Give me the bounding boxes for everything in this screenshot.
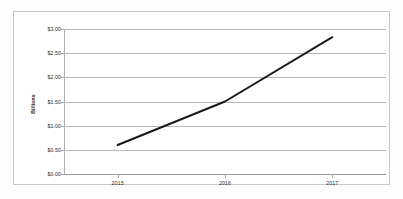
x-axis-tick-mark [118, 174, 119, 178]
y-axis-tick-label: $2.50 [48, 50, 61, 56]
data-series-line [118, 37, 333, 145]
x-axis-tick-label: 2016 [219, 180, 231, 186]
y-axis-tick-label: $3.00 [48, 26, 61, 32]
series-plot [64, 29, 386, 174]
x-axis-tick-labels: 2015 2016 2017 [64, 180, 386, 192]
x-axis-tick-mark [332, 174, 333, 178]
y-axis-tick-label: $1.00 [48, 123, 61, 129]
x-axis-tick-label: 2017 [326, 180, 338, 186]
y-axis-tick-label: $2.00 [48, 74, 61, 80]
y-axis-tick-label: $0.50 [48, 147, 61, 153]
plot-area [64, 29, 386, 174]
y-axis-tick-label: $0.00 [48, 171, 61, 177]
x-axis-tick-mark [225, 174, 226, 178]
x-axis-tick-label: 2015 [112, 180, 124, 186]
chart-frame: Billions $3.00 $2.50 $2.00 $1.50 $1.00 $… [13, 11, 390, 185]
y-axis-tick-labels: $3.00 $2.50 $2.00 $1.50 $1.00 $0.50 $0.0… [28, 29, 61, 174]
y-axis-tick-label: $1.50 [48, 99, 61, 105]
page-background: Billions $3.00 $2.50 $2.00 $1.50 $1.00 $… [0, 0, 403, 199]
